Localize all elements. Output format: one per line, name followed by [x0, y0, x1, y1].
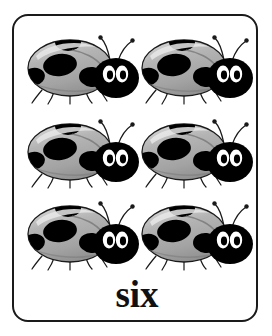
ladybug-5: [22, 196, 140, 276]
ladybug-2: [136, 30, 254, 110]
ladybug-icon: [136, 30, 254, 110]
ladybug-4: [136, 114, 254, 194]
ladybug-icon: [22, 30, 140, 110]
ladybug-icon: [22, 114, 140, 194]
ladybug-6: [136, 196, 254, 276]
number-word: six: [115, 276, 158, 313]
ladybug-1: [22, 30, 140, 110]
ladybug-icon: [136, 196, 254, 276]
ladybug-grid: [14, 18, 260, 276]
flashcard: six: [12, 14, 258, 322]
ladybug-3: [22, 114, 140, 194]
ladybug-icon: [136, 114, 254, 194]
number-word-row: six: [14, 268, 260, 320]
ladybug-icon: [22, 196, 140, 276]
